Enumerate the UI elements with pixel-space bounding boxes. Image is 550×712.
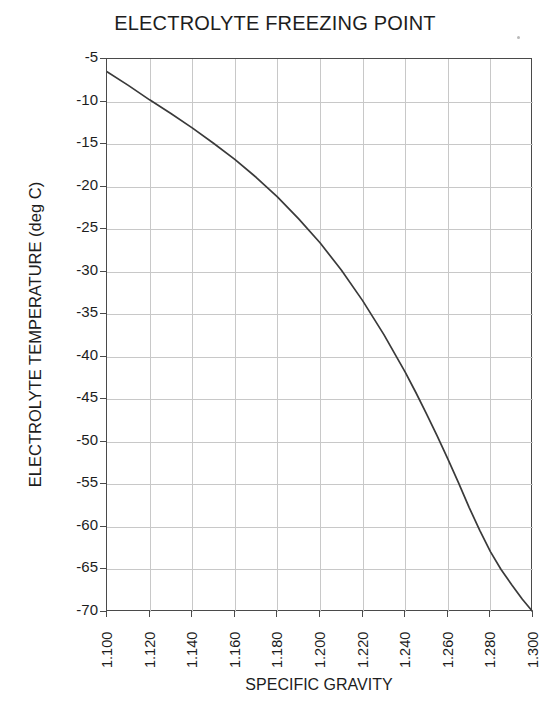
- y-tick-label: -20: [52, 176, 98, 193]
- x-tick-mark: [106, 611, 107, 617]
- x-tick-mark: [276, 611, 277, 617]
- y-tick-label: -30: [52, 261, 98, 278]
- y-tick-label: -10: [52, 91, 98, 108]
- chart-title: ELECTROLYTE FREEZING POINT: [0, 12, 550, 35]
- y-tick-label: -60: [52, 516, 98, 533]
- scan-artifact-dot: [517, 36, 520, 39]
- x-tick-mark: [319, 611, 320, 617]
- x-tick-mark: [447, 611, 448, 617]
- y-tick-label: -35: [52, 303, 98, 320]
- x-axis-title: SPECIFIC GRAVITY: [106, 676, 532, 694]
- x-tick-label: 1.280: [482, 632, 498, 668]
- x-tick-label: 1.260: [440, 632, 456, 668]
- y-tick-label: -55: [52, 473, 98, 490]
- x-tick-label: 1.140: [184, 632, 200, 668]
- plot-area: [106, 58, 532, 611]
- x-tick-label: 1.160: [227, 632, 243, 668]
- x-tick-mark: [234, 611, 235, 617]
- x-tick-label: 1.180: [269, 632, 285, 668]
- x-tick-label: 1.120: [142, 632, 158, 668]
- y-axis-title: ELECTROLYTE TEMPERATURE (deg C): [26, 58, 52, 611]
- y-tick-label: -5: [52, 48, 98, 65]
- plot-svg: [107, 59, 533, 612]
- x-tick-mark: [489, 611, 490, 617]
- x-tick-label: 1.240: [397, 632, 413, 668]
- x-tick-label: 1.300: [525, 632, 541, 668]
- y-tick-label: -40: [52, 346, 98, 363]
- x-tick-mark: [191, 611, 192, 617]
- x-tick-mark: [362, 611, 363, 617]
- x-tick-mark: [149, 611, 150, 617]
- x-tick-mark: [532, 611, 533, 617]
- chart-container: ELECTROLYTE FREEZING POINT -5-10-15-20-2…: [0, 0, 550, 712]
- x-tick-label: 1.220: [355, 632, 371, 668]
- y-tick-label: -25: [52, 218, 98, 235]
- y-tick-label: -50: [52, 431, 98, 448]
- grid-lines: [107, 59, 533, 612]
- y-tick-label: -70: [52, 601, 98, 618]
- x-tick-label: 1.100: [99, 632, 115, 668]
- y-tick-label: -15: [52, 133, 98, 150]
- x-tick-mark: [404, 611, 405, 617]
- y-tick-label: -45: [52, 388, 98, 405]
- y-tick-label: -65: [52, 558, 98, 575]
- x-tick-label: 1.200: [312, 632, 328, 668]
